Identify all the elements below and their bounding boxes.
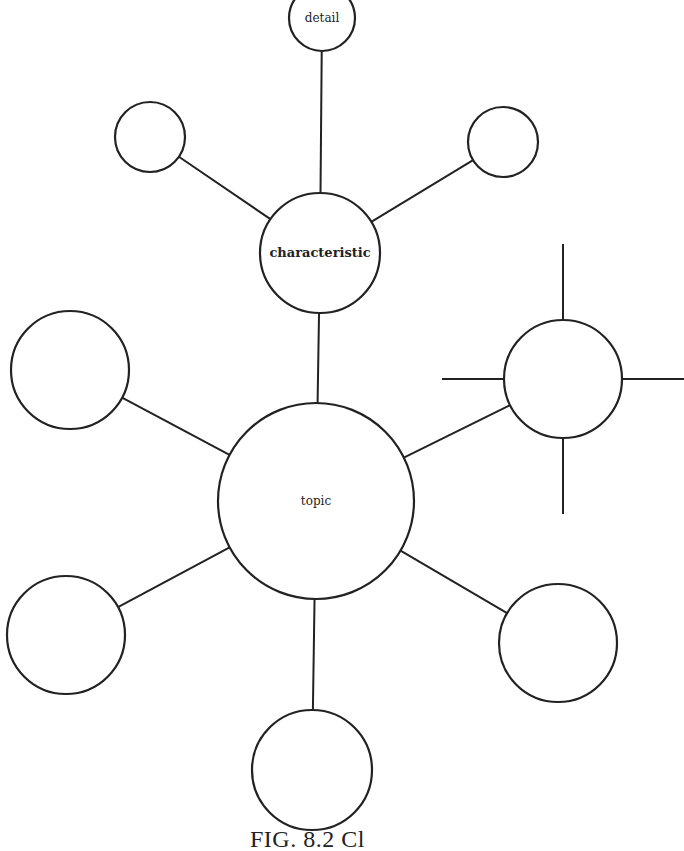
edge-right-mid-to-topic bbox=[404, 405, 510, 457]
node-topic: topic bbox=[218, 403, 414, 599]
edge-bottom-right-to-topic bbox=[401, 551, 508, 614]
edge-char-left-to-characteristic bbox=[179, 157, 271, 219]
figure-caption: FIG. 8.2 Cl bbox=[250, 826, 365, 851]
node-circle bbox=[499, 584, 617, 702]
node-circle bbox=[504, 320, 622, 438]
node-left-mid bbox=[11, 311, 129, 429]
node-bottom-left bbox=[7, 576, 125, 694]
edge-characteristic-to-topic bbox=[318, 313, 319, 403]
node-circle bbox=[252, 710, 372, 830]
node-label: characteristic bbox=[269, 245, 370, 260]
edge-left-mid-to-topic bbox=[122, 398, 229, 455]
node-bottom bbox=[252, 710, 372, 830]
node-circle bbox=[7, 576, 125, 694]
node-circle bbox=[115, 102, 185, 172]
edge-bottom-to-topic bbox=[313, 599, 315, 710]
nodes: detailcharacteristictopic bbox=[7, 0, 622, 830]
edge-char-right-to-characteristic bbox=[371, 160, 473, 222]
node-char-left bbox=[115, 102, 185, 172]
edge-bottom-left-to-topic bbox=[118, 547, 230, 607]
node-label: detail bbox=[305, 11, 340, 25]
node-characteristic: characteristic bbox=[260, 193, 380, 313]
node-circle bbox=[468, 107, 538, 177]
node-circle bbox=[11, 311, 129, 429]
edge-detail-to-characteristic bbox=[321, 51, 322, 193]
node-detail: detail bbox=[289, 0, 355, 51]
node-label: topic bbox=[301, 494, 332, 508]
node-right-mid bbox=[504, 320, 622, 438]
node-bottom-right bbox=[499, 584, 617, 702]
node-circle bbox=[289, 0, 355, 51]
node-char-right bbox=[468, 107, 538, 177]
